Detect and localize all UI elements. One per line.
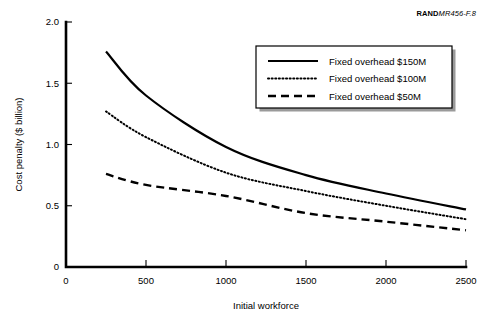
figure-container: RANDMR456-F.8 00.51.01.52.00500100015002… xyxy=(0,0,485,327)
y-axis-tick-label: 2.0 xyxy=(46,16,59,27)
x-axis-tick-label: 1000 xyxy=(215,275,236,286)
x-axis-tick-label: 0 xyxy=(63,275,68,286)
legend-label-1: Fixed overhead $150M xyxy=(329,56,426,67)
x-axis-tick-label: 500 xyxy=(138,275,154,286)
x-axis-title: Initial workforce xyxy=(233,300,299,311)
y-axis-tick-label: 0 xyxy=(54,261,59,272)
legend-label-2: Fixed overhead $100M xyxy=(329,73,426,84)
y-axis-tick-label: 1.5 xyxy=(46,78,59,89)
line-chart: 00.51.01.52.005001000150020002500Initial… xyxy=(0,0,485,327)
series-line-3 xyxy=(106,174,466,230)
x-axis-tick-label: 1500 xyxy=(295,275,316,286)
x-axis-tick-label: 2000 xyxy=(375,275,396,286)
y-axis-title: Cost penalty ($ billion) xyxy=(13,98,24,192)
y-axis-tick-label: 0.5 xyxy=(46,200,59,211)
y-axis-tick-label: 1.0 xyxy=(46,139,59,150)
legend-label-3: Fixed overhead $50M xyxy=(329,91,421,102)
x-axis-tick-label: 2500 xyxy=(455,275,476,286)
series-line-2 xyxy=(106,111,466,219)
